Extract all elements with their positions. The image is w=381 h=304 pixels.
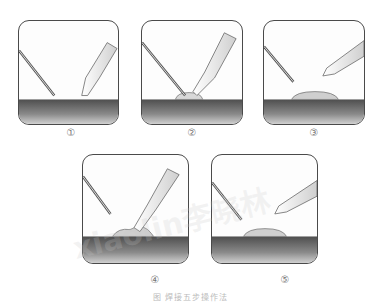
step-5-illustration [212, 155, 317, 263]
soldering-iron-icon [193, 33, 236, 96]
soldering-iron-icon [323, 41, 364, 76]
step-3-panel [263, 20, 365, 125]
soldering-iron-icon [82, 43, 117, 96]
step-4-label: ④ [145, 274, 165, 285]
step-3-label: ③ [304, 127, 324, 138]
step-3-illustration [264, 21, 364, 124]
step-4-panel [82, 154, 189, 264]
step-5-panel [211, 154, 318, 264]
step-2-illustration [142, 21, 242, 124]
board-icon [83, 236, 188, 262]
board-icon [264, 99, 364, 124]
step-1-label: ① [61, 127, 81, 138]
board-icon [212, 236, 317, 262]
step-2-panel [141, 20, 243, 125]
figure-caption: 图 焊接五步操作法 [0, 291, 381, 302]
soldering-iron-icon [134, 169, 179, 232]
board-icon [19, 99, 118, 124]
step-4-illustration [83, 155, 188, 263]
step-1-panel [18, 20, 119, 125]
solder-blob-icon [291, 92, 338, 100]
step-5-label: ⑤ [275, 274, 295, 285]
step-2-label: ② [182, 127, 202, 138]
solder-blob-icon [243, 229, 286, 237]
step-1-illustration [19, 21, 118, 124]
soldering-iron-icon [275, 181, 317, 214]
board-icon [142, 99, 242, 124]
solder-blob-icon [112, 227, 153, 237]
